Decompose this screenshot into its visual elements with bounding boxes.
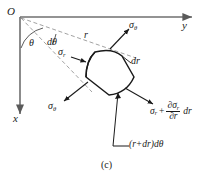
sigma-theta-top-arrow <box>110 29 129 49</box>
fraction-denominator: ∂r <box>166 112 180 122</box>
sigma-r-outer-plus: + <box>157 106 166 116</box>
sigma-r-inner-label: σr <box>58 47 65 58</box>
dr-label: dr <box>131 56 140 66</box>
arc-length-label: (r+dr)dθ <box>129 140 163 150</box>
sigma-r-outer-arrow <box>125 88 153 104</box>
sigma-theta-bottom-label: σθ <box>48 101 56 112</box>
numerator-sub: r <box>177 105 179 111</box>
sigma-theta-bottom-sub: θ <box>53 105 56 112</box>
r-radius-label: r <box>84 30 88 40</box>
numerator-partial-sigma: ∂σ <box>167 100 176 110</box>
y-axis-label: y <box>182 20 187 31</box>
sigma-r-outer-expression: σr+∂σr∂rdr <box>150 101 192 122</box>
dtheta-angle-label: dθ <box>47 37 57 47</box>
polar-stress-element-figure: O y x θ dθ r dr σθ σθ σr σr+∂σr∂rdr (r+d… <box>0 0 216 181</box>
ray-theta-dashed <box>21 18 136 58</box>
sigma-r-inner-sub: r <box>63 51 66 58</box>
x-axis-label: x <box>13 113 18 124</box>
theta-angle-label: θ <box>29 38 34 48</box>
sigma-r-inner-arrow <box>71 57 86 62</box>
origin-label: O <box>7 6 15 17</box>
arc-length-leader-line <box>113 93 129 146</box>
wedge-outline <box>86 50 134 95</box>
sigma-r-outer-differential: dr <box>180 106 191 116</box>
sigma-theta-top-label: σθ <box>129 20 137 31</box>
denominator-var: r <box>174 111 178 121</box>
sigma-theta-bottom-arrow <box>64 82 88 101</box>
wedge-element <box>86 50 134 95</box>
sigma-theta-top-sub: θ <box>134 24 137 31</box>
ray-theta-plus-dtheta-dashed <box>21 18 92 92</box>
partial-derivative-fraction: ∂σr∂r <box>166 101 180 122</box>
figure-caption: (c) <box>101 159 112 170</box>
